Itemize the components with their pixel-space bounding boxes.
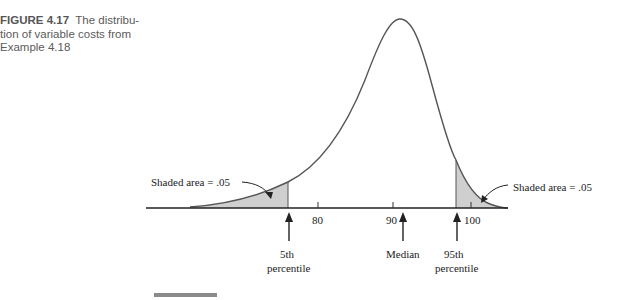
label-5th: 5th	[280, 248, 295, 260]
tick-label-80: 80	[312, 214, 324, 226]
label-median: Median	[386, 248, 420, 260]
tick-label-90: 90	[386, 214, 398, 226]
distribution-chart: 80 90 100 5th percentile Median 95th per…	[0, 0, 619, 300]
decorative-bar	[154, 293, 217, 297]
right-callout-arrow	[483, 185, 508, 200]
arrow-95th-percentile	[453, 212, 461, 241]
arrow-5th-percentile	[285, 212, 293, 241]
label-95th-percentile: percentile	[435, 262, 478, 274]
arrow-median	[399, 212, 407, 241]
label-95th: 95th	[444, 248, 464, 260]
left-shade-label: Shaded area = .05	[151, 176, 230, 188]
tick-label-100: 100	[464, 214, 481, 226]
right-shade-label: Shaded area = .05	[513, 181, 592, 193]
label-5th-percentile: percentile	[267, 262, 310, 274]
